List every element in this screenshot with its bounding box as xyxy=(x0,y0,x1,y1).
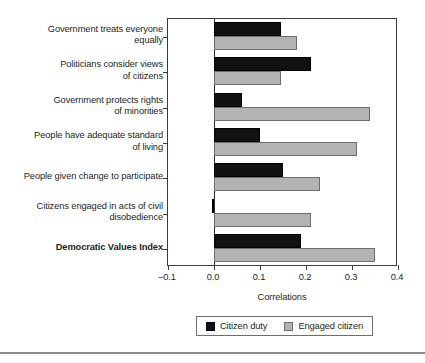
x-axis-tick-label: 0.3 xyxy=(331,272,371,282)
legend-entry: Citizen duty xyxy=(206,321,267,331)
x-axis-tick-label: –0.1 xyxy=(147,272,187,282)
category-label-line: disobedience xyxy=(0,212,163,223)
plot-frame xyxy=(167,18,397,266)
bar-engaged-citizen xyxy=(214,213,311,227)
chart-legend: Citizen dutyEngaged citizen xyxy=(196,316,373,336)
bar-citizen-duty xyxy=(214,128,260,142)
category-tick xyxy=(163,37,168,38)
bar-engaged-citizen xyxy=(214,177,320,191)
chart-figure: Government treats everyoneequallyPolitic… xyxy=(0,0,425,363)
category-label-line: Citizens engaged in acts of civil xyxy=(0,201,163,212)
bar-citizen-duty xyxy=(214,22,281,36)
category-label: Democratic Values Index xyxy=(0,242,163,253)
category-label-line: People given change to participate xyxy=(0,171,163,182)
x-axis-tick-label: 0.4 xyxy=(377,272,417,282)
bar-engaged-citizen xyxy=(214,36,297,50)
x-axis-tick xyxy=(214,265,215,270)
category-tick xyxy=(163,214,168,215)
category-label-line: Democratic Values Index xyxy=(0,242,163,253)
category-tick xyxy=(163,108,168,109)
black-square-swatch xyxy=(206,322,215,331)
category-label-line: People have adequate standard xyxy=(0,130,163,141)
x-axis-tick xyxy=(306,265,307,270)
category-tick xyxy=(163,178,168,179)
category-label-line: Government protects rights xyxy=(0,95,163,106)
category-label-line: of minorities xyxy=(0,106,163,117)
bar-citizen-duty xyxy=(214,93,242,107)
bottom-divider-rule xyxy=(0,352,425,354)
category-label-line: of citizens xyxy=(0,71,163,82)
x-axis-title: Correlations xyxy=(167,292,397,302)
category-label: Citizens engaged in acts of civildisobed… xyxy=(0,201,163,224)
legend-label: Engaged citizen xyxy=(298,321,363,331)
x-axis-tick xyxy=(352,265,353,270)
bar-citizen-duty xyxy=(214,57,311,71)
x-axis-tick xyxy=(260,265,261,270)
category-label: Politicians consider viewsof citizens xyxy=(0,59,163,82)
category-label: People given change to participate xyxy=(0,171,163,182)
category-label-line: of living xyxy=(0,142,163,153)
category-tick xyxy=(163,72,168,73)
category-tick xyxy=(163,143,168,144)
category-label-line: Politicians consider views xyxy=(0,59,163,70)
category-label-line: equally xyxy=(0,35,163,46)
legend-entry: Engaged citizen xyxy=(284,321,363,331)
bar-engaged-citizen xyxy=(214,142,357,156)
x-axis-tick-label: 0.1 xyxy=(239,272,279,282)
bar-engaged-citizen xyxy=(214,248,375,262)
bar-citizen-duty xyxy=(212,199,214,213)
gray-square-swatch xyxy=(284,322,293,331)
plot-area xyxy=(168,19,396,265)
category-label: People have adequate standardof living xyxy=(0,130,163,153)
bar-engaged-citizen xyxy=(214,107,370,121)
bar-engaged-citizen xyxy=(214,71,281,85)
x-axis-tick-label: 0.0 xyxy=(193,272,233,282)
category-label: Government treats everyoneequally xyxy=(0,24,163,47)
category-label-line: Government treats everyone xyxy=(0,24,163,35)
x-axis-tick xyxy=(168,265,169,270)
category-label: Government protects rightsof minorities xyxy=(0,95,163,118)
x-axis-tick-label: 0.2 xyxy=(285,272,325,282)
legend-label: Citizen duty xyxy=(220,321,267,331)
x-axis-tick xyxy=(398,265,399,270)
category-tick xyxy=(163,249,168,250)
bar-citizen-duty xyxy=(214,163,283,177)
bar-citizen-duty xyxy=(214,234,301,248)
